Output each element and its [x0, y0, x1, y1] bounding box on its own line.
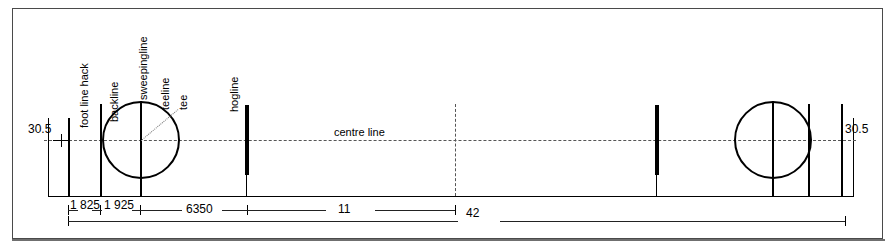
- dim-tick-42-right: [845, 216, 846, 226]
- edge-dimension-right: 30.5: [845, 122, 868, 136]
- label-centre-line: centre line: [334, 126, 385, 138]
- dim-line-42-right: [500, 221, 845, 222]
- dim-line-6350-left: [142, 210, 182, 211]
- teeline-right: [772, 101, 774, 197]
- foot-line-hack-left: [68, 118, 70, 197]
- dim-tick-centreline: [455, 205, 456, 215]
- frame-shadow: [12, 239, 885, 241]
- dim-value-42: 42: [466, 206, 479, 220]
- hogline-right-extension: [656, 175, 657, 197]
- edge-dimension-left-line: [53, 140, 69, 141]
- backline-left: [100, 104, 102, 197]
- label-foot-line-hack: foot line hack: [78, 63, 90, 128]
- label-backline: backline: [108, 82, 120, 122]
- teeline-left: [140, 101, 142, 197]
- hogline-right: [655, 105, 659, 175]
- label-hogline: hogline: [228, 77, 240, 112]
- backline-right: [808, 104, 810, 197]
- dim-line-1825-b: [92, 210, 102, 211]
- foot-line-hack-right: [841, 104, 843, 197]
- dim-line-6350-right: [222, 210, 248, 211]
- dim-line-1925: [132, 210, 142, 211]
- hogline-left: [245, 105, 249, 175]
- centre-line-vertical: [455, 104, 456, 196]
- edge-dimension-left: 30.5: [28, 122, 51, 136]
- sheet-bottom-edge: [48, 196, 854, 197]
- label-tee: tee: [177, 95, 189, 110]
- dim-value-6350: 6350: [186, 202, 213, 216]
- label-teeline: teeline: [159, 78, 171, 110]
- dim-line-42-left: [68, 221, 458, 222]
- edge-dimension-right-tick: [841, 134, 842, 147]
- label-sweepingline: sweepingline: [137, 36, 149, 100]
- hogline-left-extension: [246, 175, 247, 197]
- dim-line-11-left: [248, 210, 326, 211]
- dim-value-1925: 1 925: [104, 198, 134, 212]
- dim-line-11-right: [375, 210, 455, 211]
- diagram-page: foot line hack backline sweepingline tee…: [0, 0, 895, 251]
- dim-value-11: 11: [338, 202, 350, 216]
